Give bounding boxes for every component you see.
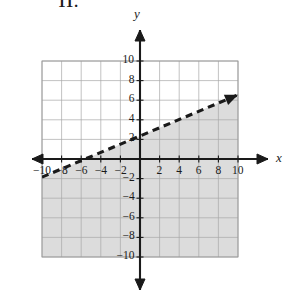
- x-tick-label: 10: [232, 164, 244, 176]
- x-axis-label: x: [276, 150, 282, 166]
- x-axis-left-arrowhead: [32, 154, 43, 164]
- coordinate-plane-figure: [0, 0, 292, 298]
- x-tick-label: −8: [56, 164, 68, 176]
- x-axis-right-arrowhead: [257, 154, 268, 164]
- y-tick-label: −6: [123, 210, 135, 222]
- y-tick-label: −8: [123, 229, 135, 241]
- y-axis-bottom-arrowhead: [135, 279, 145, 290]
- y-tick-label: 4: [129, 112, 135, 124]
- y-tick-label: 8: [129, 73, 135, 85]
- x-tick-label: 4: [176, 164, 182, 176]
- y-tick-label: 10: [123, 53, 135, 65]
- y-tick-label: 6: [129, 92, 135, 104]
- x-tick-label: −4: [95, 164, 107, 176]
- x-tick-label: 6: [196, 164, 202, 176]
- y-axis-label: y: [134, 6, 140, 22]
- y-tick-label: −10: [116, 249, 134, 261]
- y-tick-label: −4: [123, 190, 135, 202]
- y-axis-top-arrowhead: [135, 30, 145, 41]
- x-tick-label: −10: [33, 164, 51, 176]
- y-tick-label: 2: [129, 131, 135, 143]
- x-tick-label: 2: [157, 164, 163, 176]
- x-tick-label: −6: [75, 164, 87, 176]
- x-tick-label: 8: [215, 164, 221, 176]
- y-tick-label: −2: [123, 171, 135, 183]
